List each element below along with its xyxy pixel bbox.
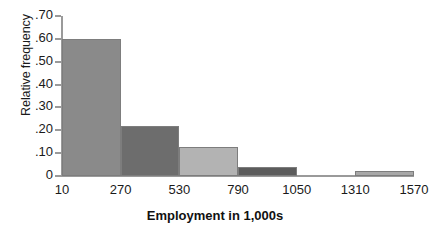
y-tick-label: .20	[35, 122, 53, 136]
x-tick-label: 1310	[341, 182, 370, 197]
y-tick-label: .70	[35, 8, 53, 22]
x-tick-label: 1570	[400, 182, 429, 197]
x-tick-label: 270	[110, 182, 132, 197]
y-tick-mark	[55, 15, 61, 17]
x-axis-title: Employment in 1,000s	[0, 208, 430, 223]
x-tick-label: 790	[227, 182, 249, 197]
y-tick-mark	[55, 38, 61, 40]
y-tick-mark	[55, 84, 61, 86]
y-tick-mark	[55, 175, 61, 177]
y-tick-mark	[55, 61, 61, 63]
histogram-bar	[62, 39, 121, 176]
y-tick-mark	[55, 152, 61, 154]
y-tick-label: .30	[35, 99, 53, 113]
x-tick-label: 530	[168, 182, 190, 197]
y-tick-label: .40	[35, 77, 53, 91]
x-tick-label: 10	[55, 182, 69, 197]
y-tick-label: 0	[46, 168, 53, 182]
histogram-bar	[179, 147, 238, 176]
y-tick-label: .60	[35, 31, 53, 45]
histogram-bar	[355, 171, 414, 176]
y-axis-title: Relative frequency	[19, 0, 33, 135]
y-tick-mark	[55, 129, 61, 131]
y-tick-label: .10	[35, 145, 53, 159]
y-tick-label: .50	[35, 54, 53, 68]
histogram-figure: Relative frequency 0.10.20.30.40.50.60.7…	[0, 0, 430, 236]
plot-area: 0.10.20.30.40.50.60.70 10270530790105013…	[62, 16, 414, 176]
x-tick-label: 1050	[282, 182, 311, 197]
histogram-bar	[238, 167, 297, 176]
histogram-bar	[121, 126, 180, 176]
y-tick-mark	[55, 106, 61, 108]
